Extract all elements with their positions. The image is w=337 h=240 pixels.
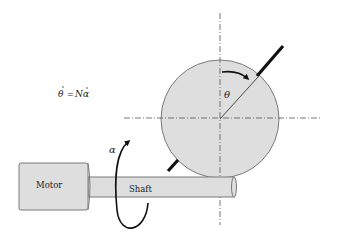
shaft-label: Shaft	[129, 184, 153, 194]
lhs-dot	[62, 86, 63, 87]
theta-label: θ	[224, 89, 230, 100]
motor-label: Motor	[36, 180, 63, 190]
shaft-end-cap	[232, 177, 237, 197]
shaft	[88, 177, 234, 197]
equation-lhs: θ	[58, 89, 64, 99]
rhs-dot	[86, 87, 87, 88]
equation: θ = N α	[58, 86, 89, 99]
motor-gear-diagram: θ Shaft Motor α θ = N α	[0, 0, 337, 240]
pointer-rod-lower	[168, 160, 178, 171]
pointer-rod-upper	[257, 46, 283, 76]
equation-rhs-var: α	[83, 89, 89, 99]
equation-equals: =	[67, 90, 74, 99]
alpha-label: α	[109, 144, 116, 155]
